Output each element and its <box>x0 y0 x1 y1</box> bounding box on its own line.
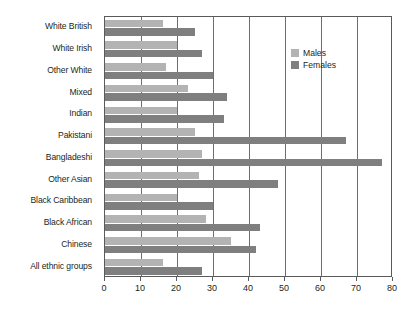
bar-females <box>105 93 227 101</box>
y-axis-label: White Irish <box>0 44 92 53</box>
bar-males <box>105 150 202 158</box>
x-axis-tick-label: 20 <box>171 283 181 293</box>
bar-males <box>105 20 163 28</box>
bar-group <box>105 191 391 213</box>
y-axis-category-labels: White BritishWhite IrishOther WhiteMixed… <box>0 16 98 277</box>
bar-group <box>105 256 391 277</box>
x-axis-tick <box>140 277 141 281</box>
y-axis-label: Pakistani <box>0 131 92 140</box>
bar-males <box>105 259 163 267</box>
legend-label: Males <box>303 48 326 58</box>
bar-group <box>105 82 391 104</box>
bar-males <box>105 237 231 245</box>
bar-males <box>105 172 199 180</box>
bar-group <box>105 17 391 39</box>
x-axis-tick <box>392 277 393 281</box>
y-axis-label: All ethnic groups <box>0 262 92 271</box>
x-axis-tick <box>212 277 213 281</box>
legend-swatch-icon <box>291 49 299 57</box>
bar-males <box>105 107 177 115</box>
bar-females <box>105 267 202 275</box>
x-axis-tick <box>320 277 321 281</box>
x-axis-tick <box>104 277 105 281</box>
bar-males <box>105 41 177 49</box>
y-axis-label: Indian <box>0 109 92 118</box>
x-axis-tick-label: 10 <box>135 283 145 293</box>
y-axis-label: Black Caribbean <box>0 196 92 205</box>
x-axis-tick <box>356 277 357 281</box>
bar-females <box>105 224 260 232</box>
legend-swatch-icon <box>291 61 299 69</box>
bar-females <box>105 72 213 80</box>
legend-item: Females <box>291 59 361 70</box>
bar-females <box>105 180 278 188</box>
bar-males <box>105 194 177 202</box>
x-axis: 01020304050607080 <box>104 277 392 303</box>
bar-group <box>105 104 391 126</box>
y-axis-label: Chinese <box>0 240 92 249</box>
bar-females <box>105 159 382 167</box>
y-axis-label: White British <box>0 22 92 31</box>
bar-group <box>105 148 391 170</box>
y-axis-label: Black African <box>0 218 92 227</box>
legend-item: Males <box>291 47 361 58</box>
x-axis-tick-label: 60 <box>315 283 325 293</box>
legend-label: Females <box>303 60 336 70</box>
bar-group <box>105 235 391 257</box>
x-axis-tick <box>284 277 285 281</box>
bar-group <box>105 169 391 191</box>
bar-chart: White BritishWhite IrishOther WhiteMixed… <box>0 0 410 310</box>
y-axis-label: Other Asian <box>0 175 92 184</box>
y-axis-label: Other White <box>0 66 92 75</box>
bar-males <box>105 85 188 93</box>
bar-females <box>105 28 195 36</box>
x-axis-tick-label: 30 <box>207 283 217 293</box>
x-axis-tick <box>176 277 177 281</box>
bar-males <box>105 128 195 136</box>
chart-legend: MalesFemales <box>291 47 361 71</box>
x-axis-tick <box>248 277 249 281</box>
bar-females <box>105 115 224 123</box>
bar-females <box>105 50 202 58</box>
bar-females <box>105 246 256 254</box>
bar-males <box>105 215 206 223</box>
x-axis-tick-label: 50 <box>279 283 289 293</box>
bar-group <box>105 126 391 148</box>
x-axis-tick-label: 0 <box>101 283 106 293</box>
y-axis-label: Mixed <box>0 88 92 97</box>
bar-group <box>105 213 391 235</box>
bar-females <box>105 137 346 145</box>
x-axis-tick-label: 70 <box>351 283 361 293</box>
y-axis-label: Bangladeshi <box>0 153 92 162</box>
x-axis-tick-label: 80 <box>387 283 397 293</box>
x-axis-tick-label: 40 <box>243 283 253 293</box>
bar-males <box>105 63 166 71</box>
bar-females <box>105 202 213 210</box>
